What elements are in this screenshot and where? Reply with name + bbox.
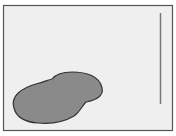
diagram bbox=[0, 0, 176, 136]
